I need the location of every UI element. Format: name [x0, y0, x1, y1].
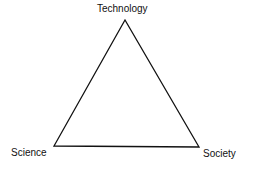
diagram-canvas: Technology Science Society — [0, 0, 255, 172]
label-society: Society — [203, 149, 236, 159]
label-technology: Technology — [97, 4, 148, 14]
label-science: Science — [11, 148, 47, 158]
